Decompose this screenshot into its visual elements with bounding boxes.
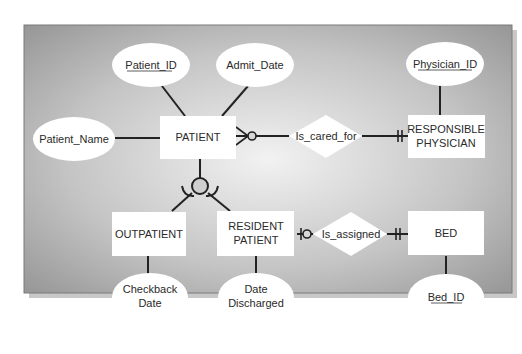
entity-resident-patient[interactable]: RESIDENT PATIENT bbox=[217, 211, 294, 256]
attribute-date-discharged[interactable]: Date Discharged bbox=[218, 273, 294, 321]
attribute-patient-id[interactable]: Patient_ID bbox=[112, 43, 190, 87]
attribute-label: Physician_ID bbox=[413, 58, 477, 70]
attribute-label-line1: Date bbox=[244, 283, 267, 295]
entity-outpatient[interactable]: OUTPATIENT bbox=[112, 212, 186, 256]
attribute-label-line2: Discharged bbox=[228, 297, 284, 309]
entity-label: BED bbox=[435, 227, 458, 239]
er-diagram: Patient_ID Admit_Date Patient_Name Physi… bbox=[0, 0, 522, 354]
relationship-label: Is_assigned bbox=[322, 228, 381, 240]
attribute-bed-id[interactable]: Bed_ID bbox=[408, 274, 484, 320]
attribute-label-line1: Checkback bbox=[123, 283, 178, 295]
entity-label: OUTPATIENT bbox=[115, 228, 183, 240]
entity-label: PATIENT bbox=[176, 131, 221, 143]
entity-responsible-physician[interactable]: RESPONSIBLE PHYSICIAN bbox=[407, 115, 485, 158]
relationship-label: Is_cared_for bbox=[295, 130, 356, 142]
attribute-label: Patient_ID bbox=[125, 59, 176, 71]
entity-label-line2: PATIENT bbox=[234, 234, 279, 246]
entity-label-line1: RESPONSIBLE bbox=[407, 123, 485, 135]
entity-label-line1: RESIDENT bbox=[228, 220, 284, 232]
entity-patient[interactable]: PATIENT bbox=[160, 116, 236, 159]
attribute-checkback-date[interactable]: Checkback Date bbox=[112, 273, 188, 321]
attribute-physician-id[interactable]: Physician_ID bbox=[406, 42, 484, 86]
attribute-patient-name[interactable]: Patient_Name bbox=[33, 117, 115, 161]
attribute-label-line2: Date bbox=[138, 297, 161, 309]
attribute-label: Patient_Name bbox=[39, 133, 109, 145]
attribute-admit-date[interactable]: Admit_Date bbox=[216, 43, 294, 87]
entity-label-line2: PHYSICIAN bbox=[416, 137, 475, 149]
entity-bed[interactable]: BED bbox=[408, 211, 484, 255]
attribute-label: Admit_Date bbox=[226, 59, 283, 71]
attribute-label: Bed_ID bbox=[428, 291, 465, 303]
